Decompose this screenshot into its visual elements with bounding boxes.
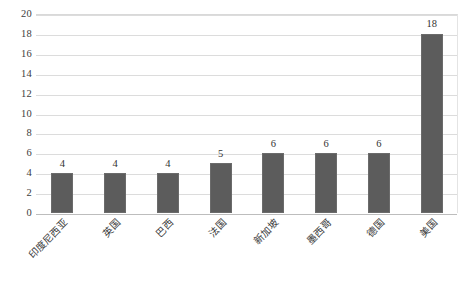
y-axis-tick-label: 10: [21, 108, 32, 119]
x-axis-tick-label: 墨西哥: [305, 217, 334, 246]
y-axis-tick-label: 6: [27, 148, 32, 159]
bar-value-label: 4: [165, 159, 170, 170]
bar-value-label: 18: [426, 19, 437, 30]
bar-chart: 20181614121086420 444566618 印度尼西亚英国巴西法国新…: [0, 0, 465, 284]
bar-slot: 6: [353, 14, 406, 213]
y-axis-tick-label: 12: [21, 88, 32, 99]
x-axis-tick-label: 英国: [101, 217, 123, 239]
bar[interactable]: [421, 34, 443, 213]
bar[interactable]: [315, 153, 337, 213]
bar[interactable]: [51, 173, 73, 213]
x-axis-tick-label: 巴西: [154, 217, 176, 239]
x-axis-tick-label: 德国: [365, 217, 387, 239]
bar[interactable]: [210, 163, 232, 213]
bar[interactable]: [157, 173, 179, 213]
y-axis: 20181614121086420: [0, 14, 32, 213]
bar-slot: 4: [142, 14, 195, 213]
bar-slot: 5: [194, 14, 247, 213]
x-axis-tick-label: 法国: [206, 217, 228, 239]
bar-value-label: 5: [218, 149, 223, 160]
bar-value-label: 4: [60, 159, 65, 170]
y-axis-tick-label: 14: [21, 68, 32, 79]
y-axis-tick-label: 20: [21, 9, 32, 20]
bar-value-label: 6: [271, 139, 276, 150]
bar-slot: 18: [405, 14, 458, 213]
bar-slot: 4: [89, 14, 142, 213]
y-axis-tick-label: 2: [27, 188, 32, 199]
y-axis-tick-label: 8: [27, 128, 32, 139]
bar-value-label: 4: [113, 159, 118, 170]
y-axis-tick-label: 0: [27, 208, 32, 219]
y-axis-tick-label: 18: [21, 29, 32, 40]
bar-slot: 4: [36, 14, 89, 213]
x-axis-tick-label: 印度尼西亚: [27, 217, 70, 260]
y-axis-tick-label: 4: [27, 168, 32, 179]
bar-slot: 6: [300, 14, 353, 213]
bar[interactable]: [262, 153, 284, 213]
x-axis: 印度尼西亚英国巴西法国新加坡墨西哥德国美国: [36, 215, 458, 284]
y-axis-tick-label: 16: [21, 49, 32, 60]
x-axis-tick-label: 美国: [417, 217, 439, 239]
bar-value-label: 6: [324, 139, 329, 150]
bar[interactable]: [368, 153, 390, 213]
bar[interactable]: [104, 173, 126, 213]
x-axis-tick-label: 新加坡: [252, 217, 281, 246]
bars-layer: 444566618: [36, 14, 458, 213]
bar-value-label: 6: [376, 139, 381, 150]
bar-slot: 6: [247, 14, 300, 213]
